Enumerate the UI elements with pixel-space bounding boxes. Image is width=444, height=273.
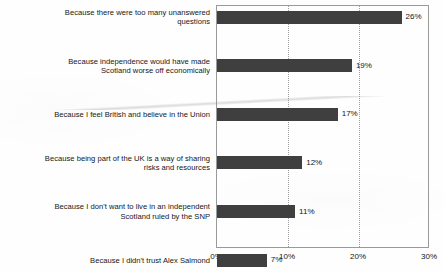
bar-row: Because I didn't trust Alex Salmond7% (0, 127, 444, 151)
bar-value-label: 11% (299, 207, 314, 216)
bar-value-label: 12% (306, 158, 322, 167)
bar-rows: Because there were too many unanswered q… (0, 5, 444, 248)
x-axis-tick-label: 20% (350, 252, 366, 261)
bar-value-label: 19% (356, 61, 372, 70)
bar-row: Because being part of the UK is a way of… (0, 78, 444, 102)
bar (217, 11, 402, 24)
bar (217, 59, 352, 72)
bar-row: Something else / DK / NA3% (0, 224, 444, 248)
bar-value-label: 26% (406, 12, 422, 21)
bar (217, 254, 267, 267)
x-axis-tick-label: 30% (421, 252, 437, 261)
bar-row: Because there were too many unanswered q… (0, 5, 444, 29)
bar-row: Because I wanted to vote Yes but in the … (0, 175, 444, 199)
bar-value-label: 17% (342, 109, 358, 118)
bar (217, 205, 295, 218)
bar-value-label: 7% (271, 255, 283, 264)
bar-chart: Because there were too many unanswered q… (0, 0, 444, 273)
category-label: Because there were too many unanswered q… (10, 8, 210, 26)
bar-row: Because independence would have made Sco… (0, 29, 444, 53)
bar (217, 156, 302, 169)
bar (217, 108, 338, 121)
